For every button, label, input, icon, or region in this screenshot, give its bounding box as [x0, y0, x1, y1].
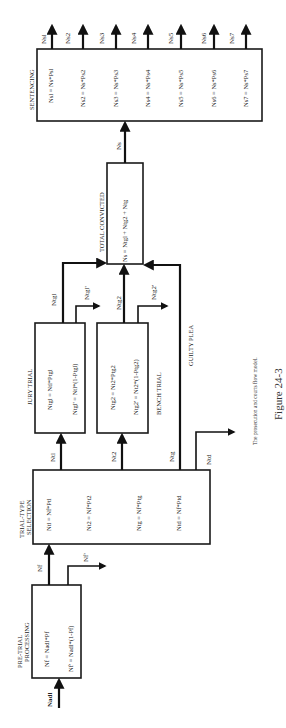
trial-type-title-2: SELECTION — [25, 499, 32, 535]
trial-type-eq-4: Ntd = Nf*Ptd — [175, 495, 182, 531]
jury-trial-title: JURY TRIAL — [26, 369, 33, 405]
total-convicted-box: TOTAL CONVICTED Ns = Ntgl + Ntg2 + Ntg — [98, 163, 143, 264]
bench-trial-box: Ntg2 = Nt2*Ptg2 Ntg2' = Nt2*(1-Ptg2) BEN… — [97, 323, 162, 433]
trial-type-eq-1: Ntl = Nf*Ptl — [45, 498, 52, 531]
pre-trial-title-2: PROCESSING — [23, 622, 30, 662]
ntg-label: Ntg — [168, 451, 176, 462]
output-ns6-label: Ns6 — [200, 32, 208, 44]
ntg2-label: Ntg2 — [115, 296, 123, 311]
pre-out-arrow — [68, 566, 105, 585]
trial-type-box: TRIAL-TYPE SELECTION Ntl = Nf*Ptl Nt2 = … — [18, 470, 210, 544]
output-ns3-label: Ns3 — [98, 32, 106, 44]
sentencing-eq-2: Ns2 = Ns*Ps2 — [79, 70, 86, 107]
output-ns4-label: Ns4 — [130, 32, 138, 44]
output-ns2-label: Ns2 — [64, 32, 72, 44]
jury-out-arrow — [76, 306, 99, 323]
output-ns5-label: Ns5 — [167, 32, 175, 44]
ntg1-out-label: Ntgl' — [83, 286, 91, 300]
ntg1-label: Ntgl — [50, 294, 58, 307]
sentencing-title: SENTENCING — [28, 69, 35, 110]
trial-type-eq-2: Nt2 = Nf*Pt2 — [85, 496, 92, 531]
flow-diagram: SENTENCING Nsl = Ns*Psl Ns2 = Ns*Ps2 Ns3… — [0, 0, 286, 728]
figure-caption: The prosecution and courts flow model. — [252, 357, 258, 445]
sentencing-eq-7: Ns7 = Ns*Ps7 — [242, 69, 249, 107]
output-ns1-label: Nsl — [40, 34, 48, 44]
nf-label: Nf — [36, 564, 44, 572]
pre-trial-eq-2: Nf' = Nadl*(1-Pf) — [67, 626, 75, 672]
nadl-label: Nadl — [46, 693, 54, 707]
sentencing-eq-3: Ns3 = Ns*Ps3 — [112, 70, 119, 107]
sentencing-eq-5: Ns5 = Ns*Ps5 — [177, 70, 184, 107]
ntg2-out-label: Ntg2' — [150, 285, 158, 300]
pre-trial-title-1: PRE-TRIAL — [16, 635, 23, 668]
jury-trial-box: JURY TRIAL Ntgl = Ntl*Ptgl Ntgl' = Ntl*(… — [26, 323, 85, 433]
tt-out-arrow — [196, 432, 234, 470]
sentencing-box: SENTENCING Nsl = Ns*Psl Ns2 = Ns*Ps2 Ns3… — [28, 49, 262, 121]
pre-trial-box: PRE-TRIAL PROCESSING Nf = Nadl*Pf Nf' = … — [16, 585, 81, 678]
sentencing-output-arrows: Nsl Ns2 Ns3 Ns4 Ns5 Ns6 Ns7 — [40, 26, 246, 49]
total-convicted-title: TOTAL CONVICTED — [98, 192, 105, 252]
guilty-plea-label: GUILTY PLEA — [187, 324, 194, 366]
sentencing-eq-4: Ns4 = Ns*Ps4 — [144, 69, 151, 107]
ns-label: Ns — [115, 142, 123, 150]
pre-trial-eq-1: Nf = Nadl*Pf — [43, 631, 50, 667]
trial-type-eq-3: Ntg = Nf*Ptg — [135, 495, 142, 531]
bench-trial-eq-2: Ntg2' = Nt2*(1-Ptg2) — [132, 359, 140, 415]
ntd-label: Ntd — [205, 454, 213, 465]
figure-number: Figure 24-3 — [272, 368, 284, 420]
sentencing-eq-6: Ns6 = Ns*Ps6 — [210, 69, 217, 107]
nf-out-label: Nf' — [82, 553, 90, 562]
total-convicted-eq: Ns = Ntgl + Ntg2 + Ntg — [121, 199, 128, 262]
bench-out-arrow — [138, 306, 167, 323]
bench-trial-eq-1: Ntg2 = Nt2*Ptg2 — [109, 365, 116, 410]
nt2-label: Nt2 — [110, 451, 118, 462]
sentencing-eq-1: Nsl = Ns*Psl — [47, 68, 54, 103]
jury-trial-eq-2: Ntgl' = Ntl*(1-Ptgl) — [71, 364, 79, 415]
jury-trial-eq-1: Ntgl = Ntl*Ptgl — [46, 369, 53, 410]
output-ns7-label: Ns7 — [228, 32, 236, 44]
nt1-label: Ntl — [49, 453, 57, 462]
trial-type-title-1: TRIAL-TYPE — [18, 500, 25, 538]
bench-trial-title: BENCH TRIAL — [155, 372, 162, 415]
